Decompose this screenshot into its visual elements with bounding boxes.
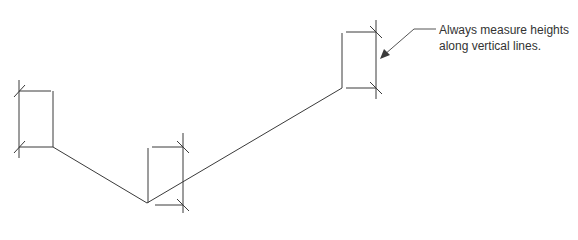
height-marker-right [342,20,382,99]
height-marker-left [14,80,53,158]
annotation-line-2: along vertical lines. [439,38,569,54]
leader-arrow [380,29,436,59]
leader-line [384,29,436,55]
annotation-text: Always measure heights along vertical li… [439,22,569,54]
height-marker-middle [148,133,189,213]
annotation-line-1: Always measure heights [439,22,569,38]
profile-line [53,88,342,203]
